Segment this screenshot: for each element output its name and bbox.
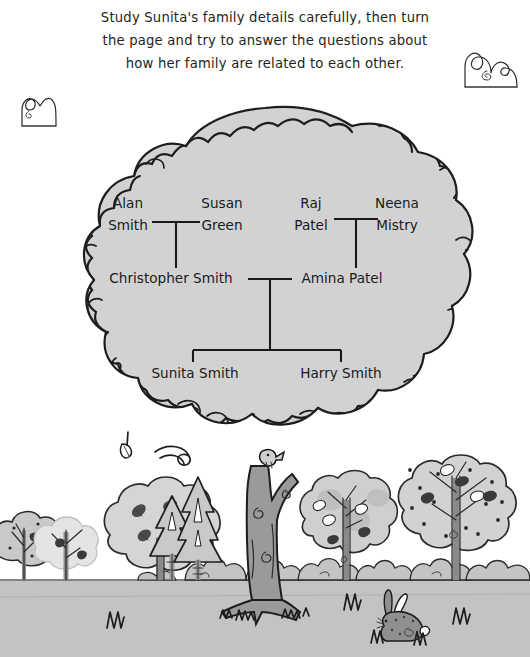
instruction-line-1: Study Sunita's family details carefully,…: [101, 10, 429, 25]
person-harry-smith: Harry Smith: [300, 365, 381, 381]
person-last-name: Smith: [108, 217, 148, 233]
person-full-name: Sunita Smith: [151, 365, 238, 381]
person-first-name: Susan: [201, 195, 242, 211]
person-full-name: Harry Smith: [300, 365, 381, 381]
activity-instructions: Study Sunita's family details carefully,…: [101, 10, 429, 71]
person-full-name: Amina Patel: [302, 270, 383, 286]
worksheet-page: Study Sunita's family details carefully,…: [0, 0, 530, 657]
family-tree-illustration: Study Sunita's family details carefully,…: [0, 0, 530, 657]
person-first-name: Raj: [300, 195, 321, 211]
person-first-name: Neena: [375, 195, 419, 211]
person-last-name: Mistry: [376, 217, 418, 233]
instruction-line-2: the page and try to answer the questions…: [103, 33, 428, 48]
person-first-name: Alan: [113, 195, 143, 211]
person-sunita-smith: Sunita Smith: [151, 365, 238, 381]
person-last-name: Patel: [294, 217, 327, 233]
person-christopher-smith: Christopher Smith: [109, 270, 232, 286]
person-last-name: Green: [201, 217, 242, 233]
person-amina-patel: Amina Patel: [302, 270, 383, 286]
instruction-line-3: how her family are related to each other…: [126, 56, 404, 71]
person-full-name: Christopher Smith: [109, 270, 232, 286]
